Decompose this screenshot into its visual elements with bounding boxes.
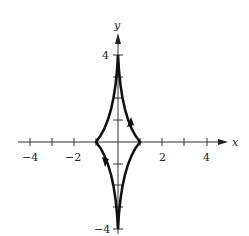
- y-tick-label-4: 4: [102, 49, 109, 62]
- x-axis-arrow-icon: [218, 139, 228, 145]
- y-axis-label: y: [113, 19, 121, 32]
- y-tick-label-neg4: −4: [94, 223, 110, 236]
- y-axis-arrow-icon: [115, 33, 121, 44]
- x-tick-label-4: 4: [203, 151, 210, 164]
- x-tick-label-neg4: −4: [22, 151, 38, 164]
- x-axis-label: x: [232, 136, 239, 149]
- x-axis: [18, 138, 228, 146]
- x-tick-label-neg2: −2: [65, 151, 81, 164]
- x-tick-label-2: 2: [159, 151, 166, 164]
- parametric-plot: x y −4 −2 2 4 4 −4: [0, 0, 249, 236]
